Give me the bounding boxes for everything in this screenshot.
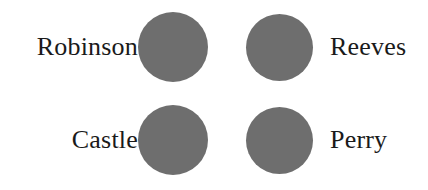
label-robinson: Robinson	[0, 34, 138, 60]
label-perry: Perry	[313, 127, 428, 153]
label-reeves: Reeves	[313, 34, 428, 60]
label-castle: Castle	[0, 127, 138, 153]
circle-pair-top	[138, 12, 313, 82]
diagram-row-top: Robinson Reeves	[0, 4, 428, 90]
circle-bottom-left[interactable]	[138, 105, 208, 175]
circle-top-left[interactable]	[138, 12, 208, 82]
circle-top-right[interactable]	[246, 14, 313, 81]
circle-bottom-right[interactable]	[246, 107, 313, 174]
circles-diagram: Robinson Reeves Castle Perry	[0, 0, 428, 190]
circle-pair-bottom	[138, 105, 313, 175]
diagram-row-bottom: Castle Perry	[0, 97, 428, 183]
